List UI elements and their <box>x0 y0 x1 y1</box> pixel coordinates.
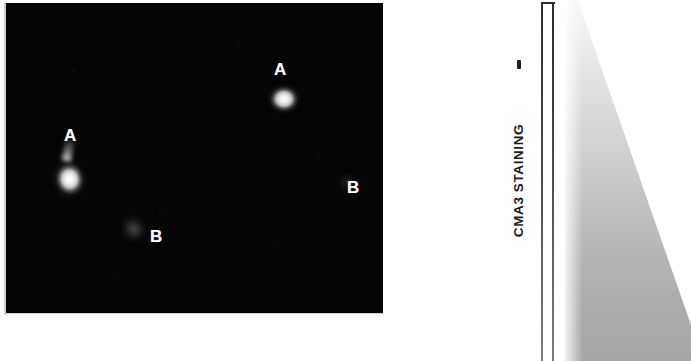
micrograph-panel: A A B B <box>6 3 383 313</box>
intensity-gradient-wedge <box>565 0 691 361</box>
marker-label-a-right: A <box>274 61 286 78</box>
marker-label-b-lower: B <box>150 228 162 245</box>
stained-cell-bright-upper <box>264 82 304 116</box>
figure-root: A A B B CMA3 STAINING <box>0 0 691 361</box>
staining-intensity-scale: CMA3 STAINING <box>495 0 691 361</box>
marker-label-b-right: B <box>347 179 359 196</box>
axis-rule-outer <box>552 2 554 361</box>
axis-rule-inner <box>541 2 543 361</box>
marker-label-a-left: A <box>64 127 76 144</box>
axis-label-cma3-staining: CMA3 STAINING <box>507 0 529 361</box>
